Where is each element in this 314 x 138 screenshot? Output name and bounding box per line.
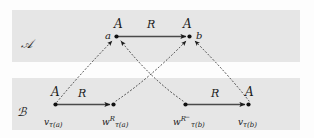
node-label-w-R-tau-a: wRτ(a) [102, 112, 129, 128]
type-label-A-upper-right: A [183, 18, 192, 30]
node-label-v-tau-a: vτ(a) [44, 112, 63, 128]
relation-label-R-upper: R [147, 19, 155, 30]
w-base-left: w [102, 117, 110, 127]
node-w-R-tau-a [111, 102, 115, 106]
relation-label-R-lower-left: R [78, 88, 86, 99]
node-v-tau-a [53, 102, 57, 106]
w-sub-left: τ(a) [115, 121, 129, 129]
type-label-A-lower-right: A [245, 86, 254, 98]
node-label-v-tau-b: vτ(b) [238, 112, 257, 128]
node-label-w-Rminus-tau-b: wR−τ(b) [173, 112, 205, 128]
relation-label-R-lower-right: R [211, 88, 219, 99]
node-w-Rminus-tau-b [183, 102, 187, 106]
band-label-script-B: ℬ [17, 106, 26, 118]
type-label-A-upper-left: A [114, 18, 123, 30]
band-label-script-A: 𝒜 [21, 38, 32, 50]
figure-canvas: b ===== --> 𝒜 ℬ A A R a b A A R R [0, 0, 314, 138]
node-a [114, 34, 118, 38]
w-sub-right: τ(b) [191, 121, 205, 129]
w-base-right: w [173, 117, 181, 127]
type-label-A-lower-left: A [51, 86, 60, 98]
node-v-tau-b [246, 102, 250, 106]
v-sub-left: τ(a) [49, 121, 63, 129]
point-label-a: a [105, 31, 111, 41]
w-sup-right-minus: − [185, 113, 190, 120]
point-label-b: b [196, 31, 202, 41]
v-sub-right: τ(b) [243, 121, 257, 129]
node-b [187, 34, 191, 38]
